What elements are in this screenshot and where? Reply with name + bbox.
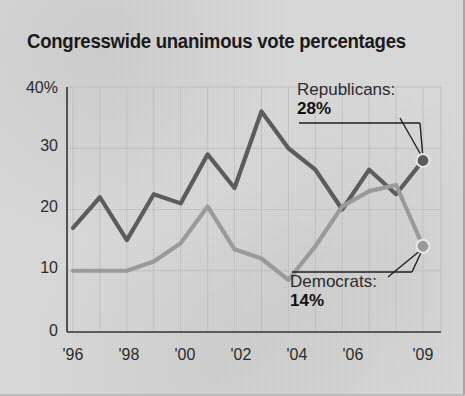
x-tick-label-02: '02 bbox=[216, 346, 266, 364]
y-tick-label-30: 30 bbox=[6, 137, 58, 155]
gridlines bbox=[67, 87, 441, 332]
callout-democrats: Democrats: 14% bbox=[290, 272, 377, 310]
line-chart-plot bbox=[0, 0, 465, 396]
callout-republicans-value: 28% bbox=[297, 99, 395, 118]
x-tick-label-96: '96 bbox=[48, 346, 98, 364]
callout-democrats-value: 14% bbox=[290, 291, 377, 310]
chart-figure: Congresswide unanimous vote percentages … bbox=[0, 0, 465, 396]
x-tick-label-00: '00 bbox=[160, 346, 210, 364]
series-lines bbox=[73, 112, 423, 280]
callout-democrats-label: Democrats: bbox=[290, 272, 377, 291]
x-tick-label-06: '06 bbox=[328, 346, 378, 364]
x-tick-label-04: '04 bbox=[272, 346, 322, 364]
callout-republicans-label: Republicans: bbox=[297, 80, 395, 99]
x-tick-label-98: '98 bbox=[104, 346, 154, 364]
y-tick-label-10: 10 bbox=[6, 259, 58, 277]
y-tick-label-20: 20 bbox=[6, 198, 58, 216]
y-tick-label-40: 40% bbox=[6, 79, 58, 97]
callout-republicans: Republicans: 28% bbox=[297, 80, 395, 118]
y-tick-label-0: 0 bbox=[6, 322, 58, 340]
x-tick-label-09: '09 bbox=[398, 346, 448, 364]
